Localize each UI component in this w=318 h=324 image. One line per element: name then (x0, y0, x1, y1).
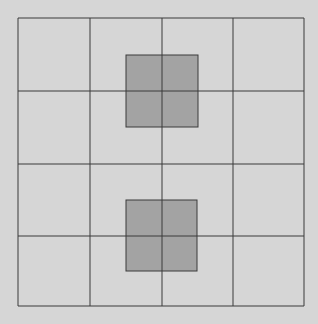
grid-diagram (0, 0, 318, 324)
